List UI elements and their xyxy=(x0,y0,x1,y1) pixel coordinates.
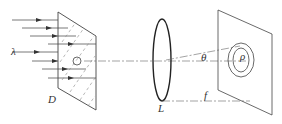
label-radius: ρ xyxy=(240,51,245,62)
plate-hatching xyxy=(60,22,95,106)
label-angle: θ xyxy=(201,52,206,63)
incident-rays xyxy=(12,20,96,78)
label-plate: D xyxy=(48,94,56,105)
diffraction-diagram: λ D L θ ρ f xyxy=(0,0,282,124)
aperture-hole xyxy=(73,57,81,65)
screen xyxy=(218,10,272,115)
label-wavelength: λ xyxy=(11,46,16,57)
label-lens: L xyxy=(158,103,164,114)
ray-arrowheads xyxy=(34,18,74,80)
label-focal: f xyxy=(204,90,207,101)
diagram-graphics xyxy=(0,0,282,124)
lens-l xyxy=(153,19,171,101)
